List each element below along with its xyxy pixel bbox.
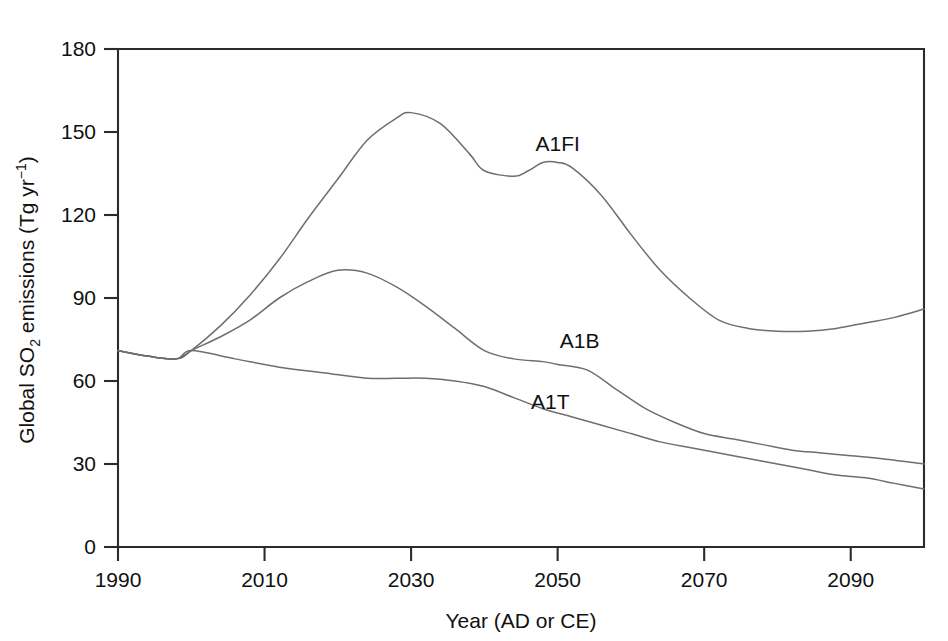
series-line-A1B <box>118 270 924 464</box>
series-label-A1B: A1B <box>560 329 600 352</box>
y-tick-label: 30 <box>73 452 96 475</box>
x-tick-label: 1990 <box>95 568 142 591</box>
chart-container: 0306090120150180 19902010203020502070209… <box>0 0 948 641</box>
axis-frame <box>118 49 924 547</box>
x-tick-label: 2090 <box>827 568 874 591</box>
y-tick-label: 60 <box>73 369 96 392</box>
x-tick-label: 2070 <box>681 568 728 591</box>
x-axis-ticks <box>118 547 851 561</box>
y-tick-label: 150 <box>61 120 96 143</box>
x-tick-label: 2010 <box>241 568 288 591</box>
y-axis-title: Global SO2 emissions (Tg yr−1) <box>13 156 43 444</box>
x-tick-label: 2050 <box>534 568 581 591</box>
series-lines <box>118 112 924 488</box>
y-tick-label: 180 <box>61 37 96 60</box>
x-axis-tick-labels: 199020102030205020702090 <box>95 568 874 591</box>
series-label-A1FI: A1FI <box>535 132 579 155</box>
plot-frame <box>118 49 924 547</box>
y-axis-ticks <box>104 49 118 547</box>
y-axis-tick-labels: 0306090120150180 <box>61 37 96 558</box>
series-line-A1T <box>118 351 924 489</box>
x-tick-label: 2030 <box>388 568 435 591</box>
y-tick-label: 120 <box>61 203 96 226</box>
so2-emissions-line-chart: 0306090120150180 19902010203020502070209… <box>0 0 948 641</box>
x-axis-title: Year (AD or CE) <box>446 609 597 632</box>
y-tick-label: 90 <box>73 286 96 309</box>
series-line-A1FI <box>118 112 924 359</box>
series-label-A1T: A1T <box>531 390 570 413</box>
y-tick-label: 0 <box>84 535 96 558</box>
